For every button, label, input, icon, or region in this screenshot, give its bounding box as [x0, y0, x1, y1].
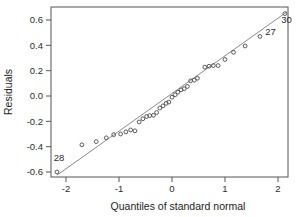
data-point [258, 35, 262, 39]
y-tick-label: 0.0 [30, 90, 43, 101]
reference-line [57, 12, 287, 175]
x-tick-label: 2 [275, 183, 280, 194]
point-label-27: 27 [265, 26, 276, 37]
data-point [104, 136, 108, 140]
y-tick-label: -0.6 [27, 166, 43, 177]
data-point [124, 130, 128, 134]
plot-border [51, 7, 288, 177]
data-point [152, 113, 156, 117]
qq-reference-line [57, 12, 287, 175]
plot-frame [51, 7, 288, 177]
data-point [55, 170, 59, 174]
point-annotations: 282730 [54, 14, 292, 163]
data-point [155, 111, 159, 115]
data-point [141, 117, 145, 121]
data-point [129, 128, 133, 132]
point-label-30: 30 [281, 14, 292, 25]
y-tick-label: 0.2 [30, 65, 43, 76]
data-point [203, 65, 207, 69]
data-point [185, 85, 189, 89]
data-point [133, 129, 137, 133]
y-tick-label: 0.6 [30, 14, 43, 25]
x-axis-title: Quantiles of standard normal [111, 200, 246, 212]
data-point [243, 44, 247, 48]
data-point [80, 143, 84, 147]
data-point [94, 140, 98, 144]
data-point [216, 64, 220, 68]
x-tick-label: -2 [62, 183, 70, 194]
data-point [223, 58, 227, 62]
y-axis-title: Residuals [2, 69, 14, 115]
x-tick-label: -1 [115, 183, 123, 194]
y-tick-label: 0.4 [30, 40, 43, 51]
data-point [137, 120, 141, 124]
point-label-28: 28 [54, 152, 65, 163]
y-tick-label: -0.2 [27, 116, 43, 127]
x-tick-label: 0 [169, 183, 174, 194]
data-point [119, 132, 123, 136]
y-tick-label: -0.4 [27, 141, 43, 152]
qq-plot-figure: -2-10120.60.40.20.0-0.2-0.4-0.6 282730 Q… [0, 0, 304, 217]
data-point [232, 50, 236, 54]
axis-tick-labels: -2-10120.60.40.20.0-0.2-0.4-0.6 [27, 14, 281, 194]
x-tick-label: 1 [222, 183, 227, 194]
data-point [196, 76, 200, 80]
